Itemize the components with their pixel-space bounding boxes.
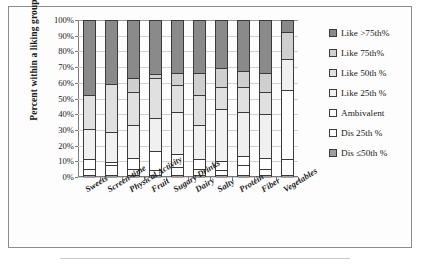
bar-segment: [260, 92, 271, 114]
y-tick-label: 30%: [58, 125, 74, 135]
bar-segment: [172, 85, 183, 112]
bar-segment: [106, 132, 117, 162]
bar-segment: [106, 165, 117, 174]
stacked-bar[interactable]: [193, 20, 206, 177]
legend-label: Like 25th %: [341, 88, 386, 98]
bar-segment: [128, 78, 139, 92]
bar-segment: [282, 59, 293, 90]
bar-segment: [128, 21, 139, 78]
legend-item[interactable]: Like 50th %: [329, 63, 428, 83]
stacked-bar[interactable]: [83, 20, 96, 177]
bar-segment: [238, 71, 249, 87]
legend-swatch: [329, 49, 337, 57]
bar-segment: [84, 129, 95, 159]
legend-swatch: [329, 109, 337, 117]
bar-segment: [238, 87, 249, 112]
bar-segment: [172, 21, 183, 73]
legend-swatch: [329, 89, 337, 97]
bar-segment: [238, 156, 249, 165]
bar-segment: [238, 112, 249, 156]
bar-segment: [194, 95, 205, 125]
plot-area: 0%10%20%30%40%50%60%70%80%90%100%: [78, 20, 298, 177]
bar-segment: [150, 78, 161, 119]
legend-swatch: [329, 29, 337, 37]
legend-label: Like 50th %: [341, 68, 386, 78]
chart-figure: Percent within a liking group 0%10%20%30…: [8, 6, 412, 248]
footer-rule: [60, 258, 350, 259]
stacked-bar[interactable]: [215, 20, 228, 177]
bar-segment: [260, 73, 271, 92]
legend-item[interactable]: Ambivalent: [329, 103, 428, 123]
bar-segment: [172, 175, 183, 178]
bar-segment: [216, 175, 227, 178]
bar-segment: [260, 114, 271, 158]
bar-segment: [194, 73, 205, 95]
bar-segment: [84, 159, 95, 168]
chart-legend: Like >75th%Like 75th%Like 50th %Like 25t…: [329, 23, 428, 163]
stacked-bar[interactable]: [149, 20, 162, 177]
y-tick-label: 90%: [58, 31, 74, 41]
legend-swatch: [329, 149, 337, 157]
legend-label: Ambivalent: [341, 108, 384, 118]
bar-segment: [194, 125, 205, 160]
bar-segment: [194, 21, 205, 73]
y-tick-label: 80%: [58, 46, 74, 56]
bar-segment: [128, 125, 139, 158]
bar-segment: [172, 112, 183, 154]
bar-segment: [282, 32, 293, 59]
legend-label: Like 75th%: [341, 48, 384, 58]
legend-label: Like >75th%: [341, 28, 389, 38]
stacked-bar[interactable]: [237, 20, 250, 177]
bar-segment: [282, 90, 293, 159]
bar-segment: [260, 158, 271, 169]
legend-label: Dis 25th %: [341, 128, 382, 138]
legend-item[interactable]: Like 25th %: [329, 83, 428, 103]
legend-label: Dis ≤50th %: [341, 148, 387, 158]
y-tick-label: 10%: [58, 156, 74, 166]
legend-item[interactable]: Like >75th%: [329, 23, 428, 43]
stacked-bar[interactable]: [105, 20, 118, 177]
stacked-bar[interactable]: [127, 20, 140, 177]
bar-segment: [260, 21, 271, 73]
bar-segment: [84, 175, 95, 178]
y-tick-label: 40%: [58, 109, 74, 119]
bar-segment: [282, 159, 293, 175]
stacked-bar[interactable]: [259, 20, 272, 177]
bar-segment: [106, 21, 117, 84]
legend-swatch: [329, 129, 337, 137]
bar-segment: [216, 21, 227, 68]
y-tick-label: 100%: [54, 15, 74, 25]
bar-segment: [238, 165, 249, 174]
bar-segment: [282, 21, 293, 32]
stacked-bar[interactable]: [281, 20, 294, 177]
legend-item[interactable]: Dis 25th %: [329, 123, 428, 143]
bar-segment: [172, 73, 183, 86]
bar-segment: [106, 84, 117, 133]
bar-segment: [84, 21, 95, 95]
bar-segment: [84, 95, 95, 130]
bar-segment: [128, 92, 139, 125]
y-tick-label: 0%: [63, 172, 74, 182]
bar-segment: [216, 109, 227, 161]
legend-item[interactable]: Like 75th%: [329, 43, 428, 63]
y-tick-label: 60%: [58, 78, 74, 88]
bar-segment: [238, 21, 249, 71]
legend-swatch: [329, 69, 337, 77]
y-tick-label: 50%: [58, 94, 74, 104]
x-tick-label: Salty: [215, 176, 236, 194]
bar-segment: [216, 87, 227, 109]
y-tick-label: 20%: [58, 141, 74, 151]
y-tick-label: 70%: [58, 62, 74, 72]
bar-segment: [238, 175, 249, 178]
bar-segment: [150, 118, 161, 151]
bar-segment: [282, 175, 293, 178]
legend-item[interactable]: Dis ≤50th %: [329, 143, 428, 163]
bar-segment: [216, 68, 227, 87]
bar-segment: [150, 21, 161, 74]
y-axis-title: Percent within a liking group: [29, 0, 47, 135]
